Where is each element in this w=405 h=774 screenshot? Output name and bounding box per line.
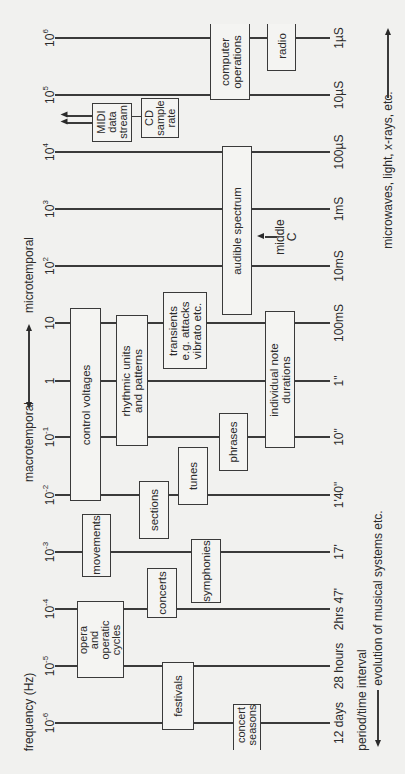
- box-cd-sample-rate: CD sample rate: [141, 98, 179, 138]
- microtemporal-label: microtemporal: [23, 237, 35, 313]
- freq-label: 10-2: [41, 485, 56, 505]
- period-label: 17': [333, 544, 345, 560]
- freq-label: 10: [41, 316, 56, 329]
- midi-cd-connector: [131, 116, 141, 117]
- period-label: 1'40": [333, 482, 345, 509]
- evolution-note: evolution of musical systems etc.: [372, 510, 384, 685]
- frequency-axis-title: frequency (Hz): [23, 673, 35, 752]
- period-label: 1mS: [333, 197, 345, 222]
- period-label: 1": [333, 376, 345, 387]
- time-scale-diagram: 106 105 104 103 102 10 1 10-1 10-2 10-3 …: [0, 0, 405, 774]
- evolution-arrow: [377, 690, 379, 742]
- midi-arrow: [66, 122, 92, 124]
- arrow-down-icon: [26, 402, 32, 409]
- arrow-left-icon: [61, 119, 68, 125]
- box-transients: transients e.g. attacks vibrato etc.: [163, 292, 207, 369]
- freq-label: 104: [41, 143, 56, 161]
- box-control-voltages: control voltages: [70, 308, 101, 501]
- period-label: 100mS: [333, 304, 345, 342]
- box-audible-spectrum: audible spectrum: [222, 146, 252, 315]
- macrotemporal-label: macrotemporal: [23, 402, 35, 482]
- middle-c-label: middle C: [274, 219, 298, 254]
- period-label: 10mS: [333, 250, 345, 281]
- box-individual-note-durations: individual note durations: [265, 311, 295, 448]
- box-rhythmic-units: rhythmic units and patterns: [116, 315, 148, 446]
- freq-label: 105: [41, 86, 56, 104]
- arrow-left-icon: [257, 233, 264, 239]
- midi-arrow: [66, 115, 92, 117]
- box-movements: movements: [82, 514, 111, 577]
- box-tunes: tunes: [178, 447, 208, 505]
- period-label: 28 hours: [333, 643, 345, 690]
- freq-label: 10-6: [41, 713, 56, 733]
- arrow-up-icon: [26, 324, 32, 331]
- period-label: 2hrs 47': [333, 588, 345, 630]
- middle-c-arrow: [265, 236, 277, 238]
- scale-line-1e2: [55, 265, 330, 267]
- period-label: 10µS: [333, 81, 345, 109]
- box-concert-seasons: concert seasons: [233, 704, 261, 750]
- period-label: 1µS: [333, 27, 345, 49]
- period-axis-title: period/time interval: [356, 649, 368, 750]
- microwaves-note: microwaves, light, x-rays, etc.: [382, 91, 394, 248]
- period-label: 10": [333, 428, 345, 446]
- box-symphonies: symphonies: [191, 539, 221, 603]
- period-label: 100µS: [333, 135, 345, 170]
- freq-label: 10-1: [41, 427, 56, 447]
- period-label: 12 days: [333, 702, 345, 744]
- arrow-down-icon: [375, 740, 381, 747]
- box-sections: sections: [139, 481, 169, 539]
- micro-macro-arrow: [28, 330, 30, 406]
- microwaves-arrow: [387, 34, 389, 98]
- scale-line-1e3: [55, 208, 330, 210]
- arrow-left-icon: [61, 112, 68, 118]
- freq-label: 102: [41, 257, 56, 275]
- box-phrases: phrases: [219, 413, 248, 471]
- scale-line-1e4: [55, 151, 330, 153]
- arrow-up-icon: [385, 28, 391, 35]
- box-concerts: concerts: [147, 568, 177, 618]
- box-midi-data-stream: MIDI data stream: [92, 103, 132, 142]
- freq-label: 10-4: [41, 599, 56, 619]
- freq-label: 1: [41, 378, 56, 385]
- freq-label: 103: [41, 200, 56, 218]
- freq-label: 10-3: [41, 542, 56, 562]
- box-computer-operations: computer operations: [210, 24, 250, 100]
- box-radio: radio: [267, 24, 296, 71]
- box-festivals: festivals: [162, 662, 194, 730]
- freq-label: 106: [41, 29, 56, 47]
- box-opera: opera and operatic cycles: [77, 601, 124, 678]
- freq-label: 10-5: [41, 656, 56, 676]
- scale-line-1e5: [55, 94, 330, 96]
